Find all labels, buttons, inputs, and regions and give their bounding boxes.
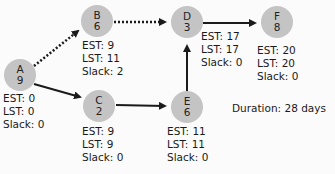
node-e-info: EST: 11 LST: 11 Slack: 0 [167,125,208,164]
node-a-lst: LST: 0 [3,105,44,118]
node-f-slack: Slack: 0 [257,70,298,83]
node-a-slack: Slack: 0 [3,118,44,131]
node-b-lst: LST: 11 [82,52,123,65]
node-a: A 9 [4,59,36,91]
node-d-lst: LST: 17 [201,43,242,56]
node-d-slack: Slack: 0 [201,56,242,69]
node-c-info: EST: 9 LST: 9 Slack: 0 [82,125,123,164]
node-a-duration: 9 [17,75,24,86]
node-d-info: EST: 17 LST: 17 Slack: 0 [201,30,242,69]
node-c-duration: 2 [96,106,103,117]
node-e-lst: LST: 11 [167,138,208,151]
node-c-est: EST: 9 [82,125,123,138]
node-f-lst: LST: 20 [257,57,298,70]
node-a-info: EST: 0 LST: 0 Slack: 0 [3,92,44,131]
node-b-est: EST: 9 [82,39,123,52]
edge-a-b [34,31,78,66]
node-b-slack: Slack: 2 [82,65,123,78]
node-e-est: EST: 11 [167,125,208,138]
node-d-est: EST: 17 [201,30,242,43]
node-c-slack: Slack: 0 [82,151,123,164]
node-f-duration: 8 [274,22,281,33]
node-e: E 6 [171,91,203,123]
node-d: D 3 [171,6,203,38]
node-c-lst: LST: 9 [82,138,123,151]
node-f: F 8 [261,6,293,38]
node-c: C 2 [83,90,115,122]
node-b-duration: 6 [94,21,101,32]
node-a-est: EST: 0 [3,92,44,105]
node-e-slack: Slack: 0 [167,151,208,164]
node-e-duration: 6 [184,107,191,118]
node-f-info: EST: 20 LST: 20 Slack: 0 [257,44,298,83]
edge-c-e [116,105,165,106]
node-d-duration: 3 [184,22,191,33]
node-b-info: EST: 9 LST: 11 Slack: 2 [82,39,123,78]
node-b: B 6 [81,5,113,37]
duration-label: Duration: 28 days [232,102,326,114]
node-f-est: EST: 20 [257,44,298,57]
